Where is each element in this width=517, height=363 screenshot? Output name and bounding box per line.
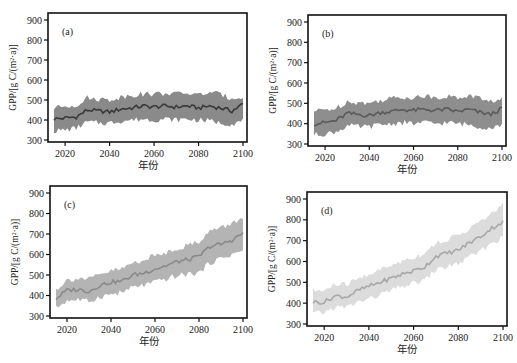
x-tick-label: 2060: [404, 152, 424, 163]
y-tick-label: 500: [287, 98, 302, 109]
uncertainty-band: [54, 91, 243, 133]
y-tick-label: 800: [27, 35, 42, 46]
x-tick-label: 2100: [493, 332, 513, 343]
y-tick-label: 600: [287, 78, 302, 89]
y-tick-label: 800: [286, 214, 301, 225]
y-axis-label: GPP/[g C/(m²·a)]: [8, 44, 19, 110]
y-tick-label: 300: [287, 139, 302, 150]
x-tick-label: 2100: [492, 152, 512, 163]
y-tick-label: 500: [27, 95, 42, 106]
x-tick-label: 2080: [189, 324, 209, 335]
x-tick-label: 2060: [404, 332, 424, 343]
y-axis-label: GPP/[g C/(m²·a)]: [10, 219, 21, 285]
uncertainty-band: [56, 218, 243, 308]
panel-label: (a): [62, 26, 73, 38]
x-axis-label: 年份: [397, 163, 418, 175]
panel-b: 3004005006007008009002020204020602080210…: [268, 15, 512, 175]
x-tick-label: 2040: [359, 152, 379, 163]
x-tick-label: 2020: [315, 152, 335, 163]
y-tick-label: 500: [29, 270, 44, 281]
y-axis-label: GPP/[g C/(m²·a)]: [268, 47, 279, 113]
y-tick-label: 300: [27, 135, 42, 146]
x-tick-label: 2080: [448, 332, 468, 343]
y-tick-label: 700: [27, 55, 42, 66]
x-tick-label: 2080: [448, 152, 468, 163]
y-tick-label: 900: [27, 15, 42, 26]
x-tick-label: 2060: [145, 324, 165, 335]
panel-label: (b): [322, 28, 334, 40]
y-tick-label: 800: [287, 37, 302, 48]
y-tick-label: 500: [286, 277, 301, 288]
y-tick-label: 400: [286, 298, 301, 309]
y-tick-label: 400: [287, 118, 302, 129]
x-tick-label: 2020: [55, 148, 75, 159]
x-tick-label: 2040: [359, 332, 379, 343]
y-tick-label: 900: [287, 17, 302, 28]
y-tick-label: 600: [29, 249, 44, 260]
y-tick-label: 400: [27, 115, 42, 126]
x-tick-label: 2100: [233, 148, 253, 159]
y-tick-label: 800: [29, 208, 44, 219]
uncertainty-band: [314, 94, 502, 137]
y-axis-label: GPP/[g C/(m²·a)]: [267, 226, 278, 292]
y-tick-label: 400: [29, 290, 44, 301]
y-tick-label: 700: [287, 57, 302, 68]
panel-d: 3004005006007008009002020204020602080210…: [267, 192, 513, 355]
x-tick-label: 2060: [144, 148, 164, 159]
x-axis-label: 年份: [397, 343, 418, 355]
panel-c: 3004005006007008009002020204020602080210…: [10, 186, 253, 347]
y-tick-label: 600: [286, 256, 301, 267]
y-tick-label: 900: [29, 188, 44, 199]
y-tick-label: 900: [286, 194, 301, 205]
x-tick-label: 2040: [101, 324, 121, 335]
panel-label: (c): [64, 199, 75, 211]
x-tick-label: 2020: [314, 332, 334, 343]
panel-a: 3004005006007008009002020204020602080210…: [8, 13, 253, 171]
y-tick-label: 600: [27, 75, 42, 86]
x-axis-label: 年份: [138, 159, 159, 171]
y-tick-label: 700: [29, 229, 44, 240]
y-tick-label: 300: [29, 311, 44, 322]
x-tick-label: 2100: [233, 324, 253, 335]
y-tick-label: 700: [286, 235, 301, 246]
x-tick-label: 2020: [57, 324, 77, 335]
y-tick-label: 300: [286, 319, 301, 330]
x-tick-label: 2040: [100, 148, 120, 159]
x-axis-label: 年份: [139, 335, 160, 347]
x-tick-label: 2080: [189, 148, 209, 159]
figure: 3004005006007008009002020204020602080210…: [0, 0, 517, 363]
panel-label: (d): [321, 205, 333, 217]
